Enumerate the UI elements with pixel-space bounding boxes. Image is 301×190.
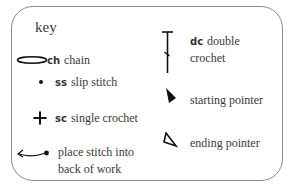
key-entry-single-crochet: scsingle crochet <box>55 110 138 127</box>
key-entry-back-of-work: place stitch into back of work <box>58 144 134 178</box>
key-entry-starting-pointer: starting pointer <box>190 92 263 108</box>
abbr-sc: sc <box>55 113 67 124</box>
label-chain: chain <box>64 53 90 67</box>
label-ending-pointer: ending pointer <box>190 136 260 150</box>
label-starting-pointer: starting pointer <box>190 93 263 107</box>
ending-pointer-icon <box>162 132 180 150</box>
back-of-work-arrow-icon <box>15 145 51 161</box>
key-entry-slip-stitch: ssslip stitch <box>55 74 117 91</box>
abbr-ch: ch <box>47 55 60 66</box>
label-back-of-work-line2: back of work <box>58 161 134 178</box>
label-double-crochet-line1: double <box>207 34 240 48</box>
key-title: key <box>35 19 57 36</box>
key-entry-chain: chchain <box>47 52 90 69</box>
abbr-ss: ss <box>55 77 67 88</box>
label-double-crochet-line2: crochet <box>190 50 240 66</box>
label-single-crochet: single crochet <box>71 111 138 125</box>
double-crochet-icon <box>161 30 175 74</box>
key-entry-double-crochet: dcdouble crochet <box>190 33 240 66</box>
chain-oval-icon <box>16 55 48 65</box>
abbr-dc: dc <box>190 36 203 47</box>
slip-stitch-dot-icon <box>38 79 44 85</box>
starting-pointer-icon <box>164 87 178 105</box>
key-entry-ending-pointer: ending pointer <box>190 135 260 151</box>
label-back-of-work-line1: place stitch into <box>58 144 134 161</box>
label-slip-stitch: slip stitch <box>71 75 117 89</box>
single-crochet-plus-icon <box>33 111 47 125</box>
